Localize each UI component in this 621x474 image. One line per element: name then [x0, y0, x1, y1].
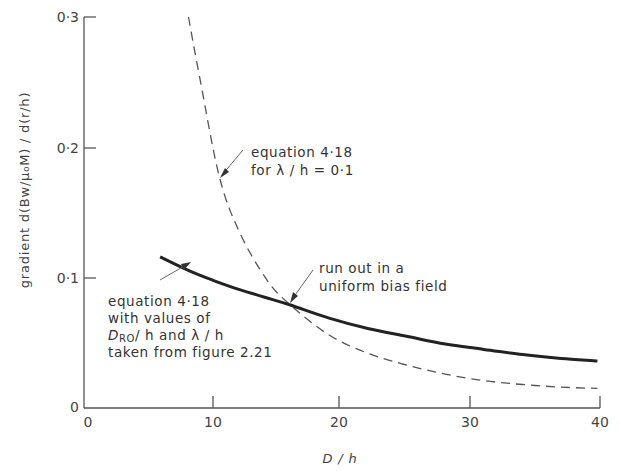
- y-tick-label: 0·2: [57, 140, 79, 156]
- x-tick-label: 0: [84, 414, 93, 430]
- annot-dashed-line2: for λ / h = 0·1: [251, 162, 354, 178]
- arrowhead-icon: [220, 168, 229, 178]
- annot-cross-line2: uniform bias field: [319, 278, 447, 294]
- annotation-solid: equation 4·18 with values of DRO/ h and …: [108, 262, 273, 360]
- annot-solid-line2: with values of: [108, 310, 211, 326]
- annot-solid-line1: equation 4·18: [108, 293, 210, 309]
- x-tick-label: 10: [204, 414, 222, 430]
- x-tick-label: 40: [591, 414, 609, 430]
- x-tick-labels: 0 10 20 30 40: [84, 414, 609, 430]
- x-tick-label: 20: [330, 414, 348, 430]
- arrowhead-icon: [290, 292, 298, 303]
- annotation-dashed: equation 4·18 for λ / h = 0·1: [220, 144, 354, 178]
- y-tick-label: 0·1: [57, 270, 79, 286]
- annot-solid-line3: DRO/ h and λ / h: [108, 327, 224, 344]
- y-tick-label: 0: [70, 399, 79, 415]
- annot-cross-line1: run out in a: [319, 260, 404, 276]
- x-tick-label: 30: [461, 414, 479, 430]
- annot-solid-line4: taken from figure 2.21: [108, 344, 273, 360]
- y-axis-title: gradient d(Bw/μ₀M) / d(r/h): [17, 92, 32, 289]
- chart: 0·3 0·2 0·1 0 0 10 20 30 40 D / h gradie…: [0, 0, 621, 474]
- pointer-line: [293, 270, 313, 298]
- annot-dashed-line1: equation 4·18: [251, 144, 353, 160]
- pointer-line: [160, 265, 186, 280]
- y-tick-label: 0·3: [57, 9, 79, 25]
- annotation-intersection: run out in a uniform bias field: [290, 260, 447, 303]
- y-tick-labels: 0·3 0·2 0·1 0: [57, 9, 79, 415]
- x-axis-title: D / h: [323, 451, 358, 466]
